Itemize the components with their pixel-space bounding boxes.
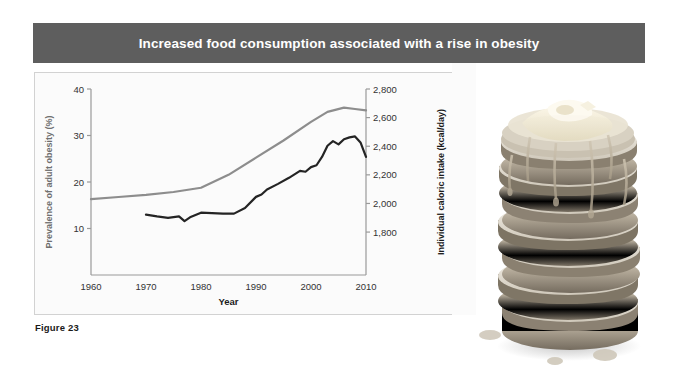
figure-caption: Figure 23 <box>35 322 79 333</box>
figure-title-bar: Increased food consumption associated wi… <box>33 23 645 63</box>
right-axis-tick-label: 1,800 <box>373 227 397 238</box>
left-axis-tick-label: 30 <box>73 130 84 141</box>
x-axis-tick-label: 1960 <box>80 281 101 292</box>
right-axis-tick-label: 2,200 <box>373 169 397 180</box>
x-axis-title: Year <box>218 296 238 307</box>
chart-svg: 102030401,8002,0002,2002,4002,6002,80019… <box>34 72 476 315</box>
right-axis-title: Individual caloric intake (kcal/day) <box>436 109 446 255</box>
left-axis-tick-label: 40 <box>73 84 84 95</box>
figure-title: Increased food consumption associated wi… <box>139 36 540 51</box>
x-axis-tick-label: 1980 <box>190 281 211 292</box>
right-axis-tick-label: 2,000 <box>373 198 397 209</box>
right-axis-tick-label: 2,600 <box>373 112 397 123</box>
left-axis-tick-label: 20 <box>73 177 84 188</box>
left-axis-tick-label: 10 <box>73 223 84 234</box>
left-axis-title: Prevalence of adult obesity (%) <box>44 115 54 248</box>
x-axis-tick-label: 1990 <box>245 281 266 292</box>
x-axis-tick-label: 1970 <box>135 281 156 292</box>
right-axis-tick-label: 2,800 <box>373 84 397 95</box>
series-line-2 <box>146 136 366 221</box>
x-axis-tick-label: 2000 <box>300 281 321 292</box>
pancake-stack-photo <box>452 63 695 372</box>
right-axis-tick-label: 2,400 <box>373 141 397 152</box>
x-axis-tick-label: 2010 <box>355 281 376 292</box>
dual-axis-line-chart: 102030401,8002,0002,2002,4002,6002,80019… <box>34 72 476 315</box>
figure-root: Increased food consumption associated wi… <box>0 0 695 372</box>
